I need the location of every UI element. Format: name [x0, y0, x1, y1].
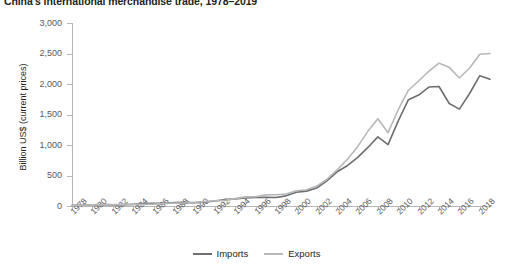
- chart-legend: ImportsExports: [0, 249, 513, 259]
- y-tick-label: 3,000: [18, 19, 62, 28]
- legend-swatch-imports: [193, 253, 212, 255]
- series-plot: [72, 23, 490, 207]
- series-line-exports: [72, 54, 490, 206]
- legend-swatch-exports: [264, 253, 283, 255]
- series-line-imports: [72, 76, 490, 206]
- y-tick-label: 2,500: [18, 49, 62, 58]
- chart-container: China's international merchandise trade,…: [0, 0, 513, 272]
- y-tick-label: 0: [18, 202, 62, 211]
- y-tick-label: 500: [18, 171, 62, 180]
- y-tick-label: 2,000: [18, 80, 62, 89]
- y-tick-label: 1,500: [18, 110, 62, 119]
- y-tick-label: 1,000: [18, 141, 62, 150]
- legend-label: Imports: [217, 249, 249, 259]
- legend-item-imports[interactable]: Imports: [193, 249, 249, 259]
- chart-title: China's international merchandise trade,…: [4, 0, 257, 7]
- legend-item-exports[interactable]: Exports: [264, 249, 320, 259]
- legend-label: Exports: [288, 249, 320, 259]
